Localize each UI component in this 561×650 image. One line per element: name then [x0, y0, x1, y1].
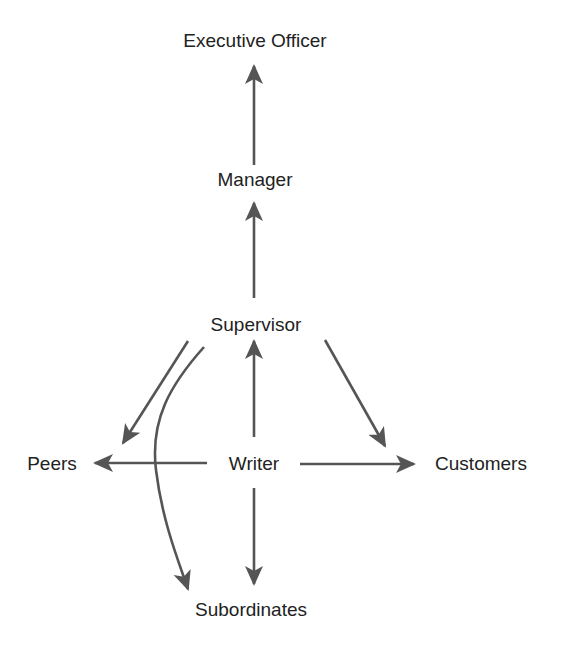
node-supervisor: Supervisor	[211, 315, 302, 335]
node-subordinates: Subordinates	[195, 600, 307, 620]
node-executive-officer: Executive Officer	[183, 31, 326, 51]
node-manager: Manager	[218, 170, 293, 190]
node-writer: Writer	[229, 454, 279, 474]
communication-diagram: Executive Officer Manager Supervisor Wri…	[0, 0, 561, 650]
node-peers: Peers	[27, 454, 77, 474]
arrow-supervisor-to-customers	[325, 340, 385, 446]
node-customers: Customers	[435, 454, 527, 474]
arrow-supervisor-to-peers	[123, 341, 188, 443]
